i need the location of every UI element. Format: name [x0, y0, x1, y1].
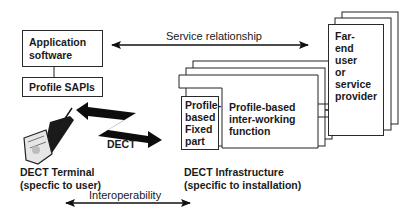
dect-infrastructure-label-line2: (specific to installation) — [184, 179, 301, 191]
profile-sapis-label: Profile SAPIs — [29, 81, 95, 93]
far-end-line6: provider — [335, 90, 377, 102]
handset-phone-icon — [24, 108, 74, 164]
dect-infrastructure-label-line1: DECT Infrastructure — [184, 166, 284, 178]
interworking-line3: function — [229, 125, 270, 137]
fixed-part-line3: Fixed — [185, 123, 212, 135]
far-end-line3: user — [335, 54, 357, 66]
fixed-part-line4: part — [185, 135, 205, 147]
far-end-line2: end — [335, 42, 354, 54]
interoperability-label: Interoperability — [89, 189, 161, 201]
application-software-box: Application software — [22, 30, 103, 67]
interworking-line1: Profile-based — [229, 101, 296, 113]
far-end-line5: service — [335, 78, 371, 90]
fixed-part-line1: Profile- — [185, 99, 221, 111]
profile-sapis-box: Profile SAPIs — [22, 77, 103, 97]
dect-architecture-diagram: Application software Profile SAPIs Servi… — [0, 0, 418, 217]
fixed-part-line2: based — [185, 111, 215, 123]
dect-terminal-label-line1: DECT Terminal — [20, 166, 94, 178]
service-relationship-label: Service relationship — [166, 30, 262, 42]
interworking-line2: inter-working — [229, 113, 296, 125]
far-end-box: Far- end user or service provider — [328, 24, 384, 136]
dect-link-label: DECT — [107, 138, 136, 150]
application-software-label-line2: software — [29, 49, 72, 61]
application-software-label-line1: Application — [29, 36, 86, 48]
far-end-line4: or — [335, 66, 346, 78]
fixed-part-box: Profile- based Fixed part — [181, 96, 219, 150]
far-end-line1: Far- — [335, 30, 355, 42]
